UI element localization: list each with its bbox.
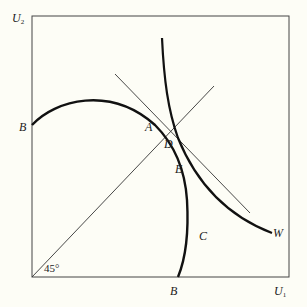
utility-frontier-curve: [32, 100, 188, 277]
point-label-b-bottom: B: [170, 285, 177, 297]
y-axis-label: U2: [12, 12, 24, 26]
point-label-a: A: [145, 121, 152, 133]
plot-frame: [32, 16, 289, 277]
point-label-c: C: [199, 230, 207, 242]
welfare-contour-curve: [162, 38, 272, 233]
point-label-w: W: [273, 227, 283, 239]
point-label-d: D: [164, 138, 173, 150]
point-label-b-left: B: [19, 121, 26, 133]
angle-label: 45°: [44, 263, 59, 274]
diagram-canvas: [0, 0, 307, 307]
tangent-line: [115, 74, 250, 213]
x-axis-label: U1: [274, 285, 286, 299]
point-label-e: E: [175, 163, 182, 175]
